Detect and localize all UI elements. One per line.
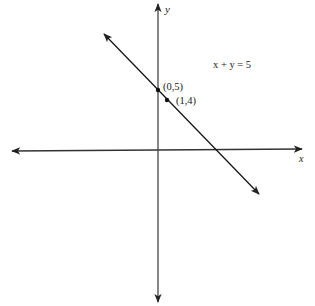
point-0-5 [156, 88, 160, 92]
equation-label: x + y = 5 [213, 59, 251, 70]
line-x-plus-y-equals-5 [104, 34, 259, 194]
x-axis-label: x [298, 153, 304, 164]
coordinate-graph: y x x + y = 5 (0,5) (1,4) [0, 0, 315, 306]
point-1-4-label: (1,4) [176, 95, 197, 107]
point-0-5-label: (0,5) [163, 81, 184, 93]
y-axis-label: y [164, 3, 170, 15]
point-1-4 [165, 98, 169, 102]
x-axis [12, 149, 302, 151]
